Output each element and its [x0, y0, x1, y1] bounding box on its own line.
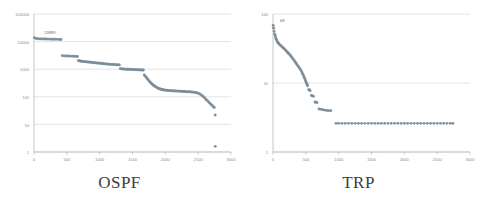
- svg-text:100: 100: [22, 95, 30, 100]
- svg-text:10: 10: [24, 123, 29, 128]
- svg-text:500: 500: [302, 157, 310, 162]
- svg-text:10: 10: [263, 81, 268, 86]
- svg-text:1000: 1000: [20, 67, 30, 72]
- svg-text:500: 500: [63, 157, 71, 162]
- data-label-annotation: 68: [280, 18, 285, 23]
- svg-text:100000: 100000: [15, 12, 29, 17]
- svg-text:3000: 3000: [226, 157, 236, 162]
- svg-text:10000: 10000: [18, 40, 30, 45]
- svg-text:1: 1: [27, 150, 30, 155]
- svg-text:2500: 2500: [194, 157, 204, 162]
- plot-area-trp: 11010005001000150020002500300068: [239, 0, 478, 176]
- scatter-plot-trp: 11010005001000150020002500300068: [239, 0, 478, 176]
- svg-text:0: 0: [272, 157, 275, 162]
- data-label-annotation: 13889: [44, 30, 56, 35]
- plot-area-ospf: 1101001000100001000000500100015002000250…: [0, 0, 239, 176]
- panel-title-ospf: OSPF: [0, 172, 239, 194]
- scatter-plot-ospf: 1101001000100001000000500100015002000250…: [0, 0, 239, 176]
- svg-text:2500: 2500: [433, 157, 443, 162]
- svg-text:100: 100: [261, 12, 269, 17]
- svg-text:3000: 3000: [465, 157, 475, 162]
- svg-text:1500: 1500: [128, 157, 138, 162]
- data-series-ospf: [33, 36, 217, 148]
- svg-text:1: 1: [266, 150, 269, 155]
- svg-text:2000: 2000: [400, 157, 410, 162]
- svg-text:1000: 1000: [334, 157, 344, 162]
- panel-title-trp: TRP: [239, 172, 478, 194]
- panel-ospf: 1101001000100001000000500100015002000250…: [0, 0, 239, 204]
- data-series-trp: [272, 24, 455, 125]
- svg-text:0: 0: [33, 157, 36, 162]
- svg-text:2000: 2000: [161, 157, 171, 162]
- svg-text:1500: 1500: [367, 157, 377, 162]
- panel-trp: 11010005001000150020002500300068 TRP: [239, 0, 478, 204]
- figure-two-panel-scatter: 1101001000100001000000500100015002000250…: [0, 0, 478, 204]
- svg-text:1000: 1000: [95, 157, 105, 162]
